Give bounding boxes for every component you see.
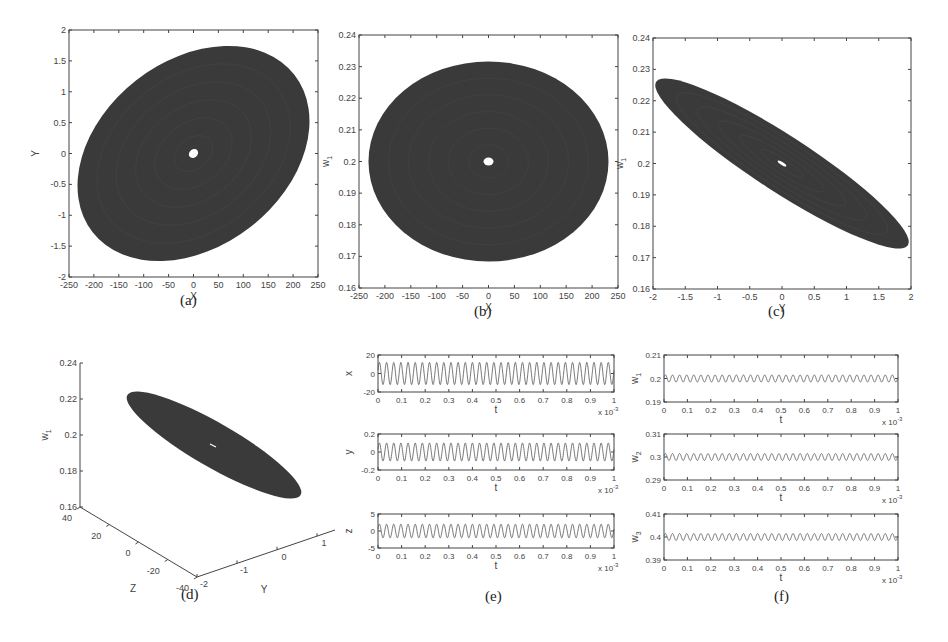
x-tick-label: 0.6 [799,406,811,415]
x-tick-label: 1 [896,406,901,415]
z-tick-label: 0.16 [59,502,77,512]
x-tick-label: 0.6 [799,484,811,493]
subplot-w2: 00.10.20.30.40.50.60.70.80.910.290.30.31… [629,430,903,505]
depth-tick [106,525,109,527]
plot-c: -2-1.5-1-0.500.511.520.160.170.180.190.2… [614,33,923,314]
x-tick-label: -100 [135,280,153,290]
x-tick-label: 0 [779,292,784,302]
y3d-tick-label: 1 [321,538,326,548]
x-tick-label: 200 [286,280,301,290]
x-tick-label: 0.4 [467,396,479,405]
y-tick-label: 0 [371,448,376,457]
y-tick-label: 0.21 [645,351,661,360]
y-axis-label: w3 [629,531,642,543]
caption-c: (c) [768,303,785,320]
figure: -250-200-150-100-50050100150200250-2-1.5… [0,0,948,642]
x-axis-label: t [495,404,498,415]
attractor-center-hole [484,158,494,166]
x-tick-label: 100 [533,291,548,301]
y-tick-label: 0.4 [650,533,662,542]
x-tick-label: 0.4 [752,406,764,415]
y-axis-label: w1 [629,373,642,385]
x-axis-label: t [495,482,498,493]
x-axis-label: t [780,572,783,583]
series-line-x [378,362,614,384]
x-tick-label: 1 [896,564,901,573]
x-tick-label: 0.3 [729,484,741,493]
y-tick-label: 0.18 [632,221,650,231]
x-tick-label: 0.3 [443,552,455,561]
x-tick-label: 0.8 [846,564,858,573]
x-multiplier: x 10-3 [882,574,903,585]
x-tick-label: -200 [85,280,103,290]
x-tick-label: 0.8 [846,484,858,493]
y-tick-label: 0.5 [53,118,66,128]
subplot-w3: 00.10.20.30.40.50.60.70.80.910.390.40.41… [629,510,903,585]
series-line-w1 [664,375,898,382]
y-tick-label: 0.17 [632,253,650,263]
series-line-w3 [664,534,898,541]
x-tick-label: 0 [376,552,381,561]
z-tick-label: 0.22 [59,394,77,404]
x-tick-label: -2 [649,292,657,302]
y-tick-label: 0.19 [645,398,661,407]
x-tick-label: 1 [612,474,617,483]
z-tick-label: 0.18 [59,466,77,476]
x-tick-label: 0 [662,484,667,493]
y-tick-label: 0.24 [338,30,356,40]
x-tick-label: -0.5 [742,292,758,302]
y-tick-label: 0.17 [338,251,356,261]
subplot-y: 00.10.20.30.40.50.60.70.80.91-0.200.2tyx… [343,430,619,495]
x-tick-label: 0.9 [869,564,881,573]
x-multiplier: x 10-3 [882,494,903,505]
x-tick-label: 0.8 [561,396,573,405]
y-tick-label: 0.2 [364,430,376,439]
x-tick-label: -1 [713,292,721,302]
y-tick-label: 0.22 [338,93,356,103]
depth-tick-label: -20 [147,566,160,576]
y-tick-label: 0.16 [338,283,356,293]
x-tick-label: 0.9 [869,484,881,493]
y-tick-label: -0.2 [361,466,375,475]
subplot-z: 00.10.20.30.40.50.60.70.80.91-505tzx 10-… [343,510,619,573]
x-tick-label: 0.9 [585,552,597,561]
y-tick-label: 20 [366,351,375,360]
y-tick-label: 5 [371,510,376,519]
x-tick-label: -50 [162,280,175,290]
y-tick-label: 0 [371,370,376,379]
series-line-w2 [664,454,898,461]
x-tick-label: 1 [844,292,849,302]
y-tick-label: 0.19 [632,190,650,200]
depth-tick [194,577,197,579]
x-tick-label: 0 [191,280,196,290]
y-tick-label: 0.29 [645,476,661,485]
x-tick-label: 0.6 [514,474,526,483]
y-tick-label: -20 [363,388,375,397]
x-tick-label: 250 [310,280,325,290]
x-tick-label: 0.7 [822,406,834,415]
x-tick-label: 0.6 [799,564,811,573]
x-tick-label: 0 [376,474,381,483]
y-tick-label: -0.5 [50,179,66,189]
x-tick-label: -150 [110,280,128,290]
x-tick-label: 0.2 [420,552,432,561]
x-tick-label: 0.7 [822,564,834,573]
x-tick-label: 0.3 [443,474,455,483]
y-tick-label: 0.41 [645,510,661,519]
figure-canvas: -250-200-150-100-50050100150200250-2-1.5… [0,0,948,642]
y-tick-label: 1 [61,87,66,97]
x-tick-label: 0.7 [538,396,550,405]
y-tick-label: 0.2 [650,375,662,384]
caption-d: (d) [181,586,199,603]
x-multiplier: x 10-3 [598,484,619,495]
x-multiplier: x 10-3 [598,406,619,417]
x-tick-label: 0.4 [467,474,479,483]
x-multiplier: x 10-3 [882,416,903,427]
y-axis-label: w2 [629,451,642,463]
x-tick-label: 0 [662,406,667,415]
x-tick-label: -1.5 [677,292,693,302]
z-axis-label: w1 [39,429,52,441]
y-tick-label: -2 [58,272,66,282]
depth-tick-label: 20 [91,531,101,541]
x-tick-label: 0.8 [561,552,573,561]
